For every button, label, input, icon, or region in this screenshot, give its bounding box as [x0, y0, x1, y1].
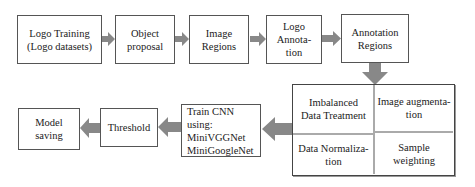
cell-sample-weighting: Sample weighting — [375, 133, 453, 175]
grid-divider-vertical — [373, 85, 375, 174]
grid-divider-horizontal-right — [375, 131, 453, 133]
arrow-left-icon — [158, 117, 181, 137]
arrow-left-icon — [262, 117, 292, 141]
node-model-saving: Model saving — [18, 108, 80, 150]
cell-data-normalization: Data Normaliza- tion — [293, 135, 374, 175]
arrow-right-icon — [322, 31, 341, 46]
cell-image-augmentation: Image augmenta- tion — [375, 85, 453, 131]
arrow-right-icon — [102, 32, 115, 46]
node-threshold: Threshold — [100, 108, 158, 147]
node-annotation-regions: Annotation Regions — [341, 14, 409, 63]
preprocessing-grid: Imbalanced Data Treatment Image augmenta… — [292, 84, 455, 176]
node-object-proposal: Object proposal — [115, 15, 175, 64]
arrow-right-icon — [175, 32, 189, 46]
arrow-right-icon — [250, 32, 266, 46]
arrow-down-icon — [362, 63, 388, 85]
node-logo-training: Logo Training (Logo datasets) — [17, 15, 102, 64]
grid-divider-horizontal-left — [293, 133, 373, 135]
cell-imbalanced-data-treatment: Imbalanced Data Treatment — [293, 85, 374, 133]
node-train-cnn: Train CNN using: MiniVGGNet MiniGoogleNe… — [181, 104, 261, 157]
node-image-regions: Image Regions — [189, 15, 249, 64]
node-logo-annotation: Logo Annota- tion — [266, 15, 322, 64]
arrow-left-icon — [80, 118, 100, 138]
